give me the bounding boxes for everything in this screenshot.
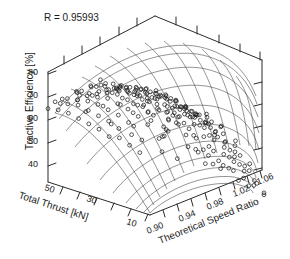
scatter-point — [175, 157, 179, 161]
plot-canvas: R = 0.95993 Tractive Efficiency [%] 80 7… — [0, 0, 290, 259]
z-tick-label-60: 60 — [28, 113, 38, 123]
figure-3d-surface-plot: R = 0.95993 Tractive Efficiency [%] 80 7… — [0, 0, 290, 259]
scatter-point — [216, 135, 220, 139]
y-tick-label-30: 30 — [85, 193, 98, 206]
z-tick-label-80: 80 — [28, 67, 38, 77]
scatter-point — [222, 145, 226, 149]
scatter-point — [233, 150, 237, 154]
scatter-point — [232, 169, 236, 173]
scatter-point — [221, 132, 225, 136]
scatter-point — [203, 162, 207, 166]
scatter-point — [212, 149, 216, 153]
y-tick-label-50: 50 — [43, 182, 56, 195]
z-axis-ticks — [48, 71, 56, 166]
y-tick-label-10: 10 — [125, 216, 138, 229]
scatter-point — [60, 97, 64, 101]
scatter-point — [222, 152, 226, 156]
scatter-point — [234, 139, 238, 143]
x-tick-label-106: 1.06 — [255, 171, 275, 187]
scatter-point — [186, 145, 190, 149]
z-tick-label-50: 50 — [28, 136, 38, 146]
scatter-point — [243, 164, 247, 168]
scatter-point — [227, 166, 231, 170]
scatter-point — [238, 163, 242, 167]
scatter-point — [238, 154, 242, 158]
scatter-point — [53, 100, 57, 104]
scatter-point — [228, 148, 232, 152]
fitted-surface — [55, 37, 259, 213]
scatter-point — [247, 169, 251, 173]
z-tick-label-40: 40 — [28, 159, 38, 169]
scatter-point — [211, 162, 215, 166]
correlation-annotation: R = 0.95993 — [44, 12, 99, 23]
scatter-point — [232, 160, 236, 164]
z-tick-label-70: 70 — [28, 90, 38, 100]
scatter-point — [248, 162, 252, 166]
scatter-point — [217, 159, 221, 163]
scatter-point — [196, 150, 200, 154]
scatter-point — [207, 145, 211, 149]
scatter-point — [233, 155, 237, 159]
